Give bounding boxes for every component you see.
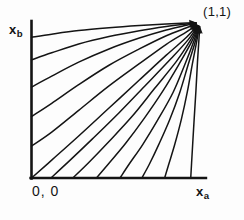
trajectory-curve — [32, 25, 198, 178]
trajectory-group — [32, 23, 200, 178]
x-axis-label-base: x — [196, 184, 204, 199]
fixed-point-label: (1,1) — [203, 4, 231, 19]
y-axis-label: xb — [9, 22, 23, 39]
origin-label: 0, 0 — [32, 183, 59, 199]
y-axis-label-base: x — [9, 22, 17, 37]
x-axis-label-subscript: a — [204, 190, 209, 201]
phase-portrait-figure: xb xa 0, 0 (1,1) — [0, 0, 244, 220]
trajectory-curve — [32, 25, 197, 146]
x-axis-label: xa — [196, 184, 209, 201]
trajectory-curve — [165, 26, 200, 178]
y-axis-label-subscript: b — [17, 28, 23, 39]
trajectory-curve — [96, 26, 198, 178]
